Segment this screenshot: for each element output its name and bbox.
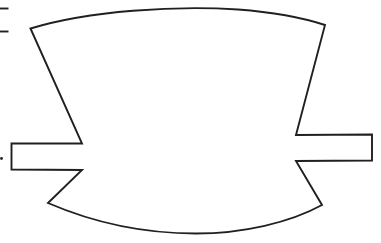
drawing-canvas: Line drawing (0, 0, 381, 243)
left-edge-dot (0, 157, 3, 160)
line-drawing-figure (0, 0, 381, 243)
